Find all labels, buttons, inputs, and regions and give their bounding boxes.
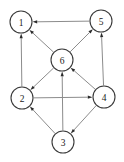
- edge-5-to-1: [33, 20, 90, 23]
- graph-node-3[interactable]: 3: [52, 131, 74, 153]
- edge-line: [74, 71, 95, 90]
- edge-line: [102, 37, 104, 85]
- edge-2-to-1: [20, 34, 23, 87]
- edge-3-to-6: [61, 72, 64, 131]
- edge-2-to-4: [34, 96, 93, 99]
- edge-6-to-1: [30, 30, 54, 52]
- edge-line: [34, 68, 54, 87]
- graph-canvas: 156243: [0, 0, 124, 162]
- edge-4-to-3: [71, 106, 96, 134]
- edge-line: [70, 32, 89, 51]
- edge-4-to-6: [71, 68, 96, 90]
- arrowhead-icon: [61, 72, 64, 77]
- arrowhead-icon: [33, 20, 38, 23]
- arrowhead-icon: [20, 34, 23, 39]
- node-label: 3: [61, 138, 66, 148]
- graph-node-5[interactable]: 5: [90, 10, 112, 32]
- graph-node-1[interactable]: 1: [10, 11, 32, 33]
- node-label: 6: [60, 56, 65, 66]
- edge-line: [74, 106, 96, 130]
- edge-line: [37, 21, 89, 22]
- directed-graph-figure: 156243: [0, 0, 124, 162]
- edges-layer: [20, 20, 104, 133]
- edge-line: [33, 110, 55, 134]
- edge-6-to-5: [70, 29, 93, 52]
- graph-node-2[interactable]: 2: [11, 87, 33, 109]
- edge-line: [33, 33, 54, 52]
- edge-6-to-2: [30, 68, 53, 90]
- edge-line: [21, 38, 22, 86]
- node-label: 4: [102, 93, 107, 103]
- node-label: 5: [99, 17, 104, 27]
- node-label: 1: [19, 18, 24, 28]
- edge-3-to-2: [30, 106, 55, 133]
- arrowhead-icon: [100, 33, 103, 38]
- arrowhead-icon: [88, 96, 93, 99]
- node-label: 2: [20, 94, 25, 104]
- edge-line: [62, 76, 63, 130]
- edge-line: [34, 97, 88, 98]
- edge-4-to-5: [100, 33, 104, 86]
- graph-node-4[interactable]: 4: [93, 86, 115, 108]
- graph-node-6[interactable]: 6: [51, 49, 73, 71]
